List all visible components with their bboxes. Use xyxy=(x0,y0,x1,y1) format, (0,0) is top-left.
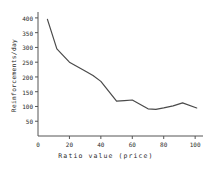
y-tick-label: 400 xyxy=(0,14,33,21)
line-chart-plot xyxy=(0,0,212,171)
y-axis-title: Reinforcements/day xyxy=(10,21,17,131)
y-tick-label: 50 xyxy=(0,118,33,125)
y-tick-label: 350 xyxy=(0,29,33,36)
y-tick-label: 300 xyxy=(0,44,33,51)
series-line-0 xyxy=(47,19,196,109)
y-tick-label: 250 xyxy=(0,59,33,66)
chart-container: 50100150200250300350400020406080100 Rein… xyxy=(0,0,212,171)
x-tick-label: 100 xyxy=(190,141,201,148)
x-tick-label: 0 xyxy=(36,141,40,148)
x-axis-title: Ratio value (price) xyxy=(0,152,212,160)
y-tick-label: 100 xyxy=(0,103,33,110)
y-tick-label: 200 xyxy=(0,73,33,80)
x-tick-label: 20 xyxy=(66,141,73,148)
x-tick-label: 60 xyxy=(129,141,136,148)
x-tick-label: 40 xyxy=(97,141,104,148)
y-tick-label: 150 xyxy=(0,88,33,95)
data-series-group xyxy=(47,19,196,109)
axes-group xyxy=(38,12,203,136)
x-tick-label: 80 xyxy=(160,141,167,148)
